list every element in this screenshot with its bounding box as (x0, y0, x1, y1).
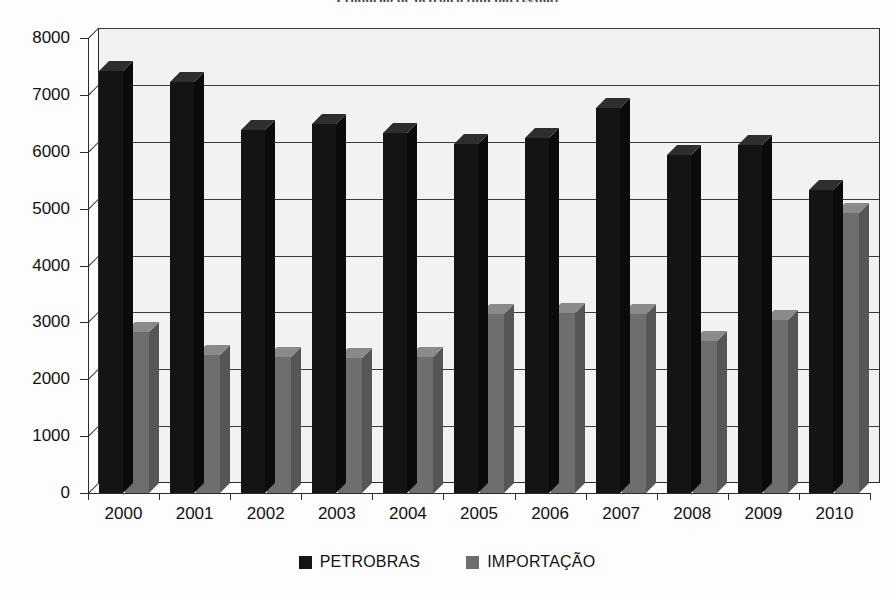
plot-area (88, 38, 870, 493)
bar-2008-petrobras (667, 155, 691, 493)
bar-front-face (809, 190, 833, 493)
bar-2010-petrobras (809, 190, 833, 493)
x-axis-tick-label: 2004 (389, 504, 427, 524)
legend-swatch-gray-icon (466, 556, 479, 569)
x-axis-tick-mark (372, 493, 373, 500)
bar-side-face (478, 134, 488, 493)
gridline (98, 28, 880, 29)
y-axis-tick-label: 6000 (32, 142, 70, 162)
x-axis-tick-mark (657, 493, 658, 500)
bar-side-face (407, 123, 417, 493)
bar-front-face (596, 108, 620, 493)
bar-front-face (241, 130, 265, 493)
bar-front-face (525, 138, 549, 493)
x-axis-tick-label: 2000 (105, 504, 143, 524)
x-axis-tick-label: 2003 (318, 504, 356, 524)
x-axis-tick-mark (301, 493, 302, 500)
bar-side-face (859, 203, 869, 493)
chart-title: Produção de petróleo (mil barris/dia) (0, 0, 894, 2)
bar-side-face (220, 345, 230, 493)
bar-2009-petrobras (738, 145, 762, 493)
bar-2000-petrobras (99, 71, 123, 493)
plot-left-wall (88, 38, 89, 493)
y-axis-tick-label: 2000 (32, 369, 70, 389)
bar-side-face (646, 304, 656, 493)
bar-front-face (738, 145, 762, 493)
x-axis-tick-label: 2002 (247, 504, 285, 524)
y-axis-tick-label: 8000 (32, 28, 70, 48)
x-axis-tick-label: 2008 (673, 504, 711, 524)
x-axis-tick-mark (586, 493, 587, 500)
bar-side-face (549, 128, 559, 493)
y-axis-tick-mark (80, 152, 88, 153)
legend-label: IMPORTAÇÃO (487, 553, 595, 571)
y-axis-tick-mark (80, 322, 88, 323)
bar-front-face (99, 71, 123, 493)
legend-item-petrobras[interactable]: PETROBRAS (299, 553, 421, 571)
y-axis-tick-mark (80, 493, 88, 494)
bar-side-face (433, 347, 443, 494)
bar-side-face (336, 114, 346, 493)
x-axis-tick-label: 2001 (176, 504, 214, 524)
x-axis-tick-mark (230, 493, 231, 500)
bar-2002-petrobras (241, 130, 265, 493)
bar-side-face (362, 348, 372, 493)
bar-2007-petrobras (596, 108, 620, 493)
bar-front-face (383, 133, 407, 493)
x-axis-tick-mark (515, 493, 516, 500)
bar-2001-petrobras (170, 82, 194, 493)
bar-side-face (620, 98, 630, 493)
x-axis-tick-mark (728, 493, 729, 500)
bar-side-face (691, 145, 701, 493)
bar-side-face (149, 322, 159, 493)
y-axis-tick-label: 0 (61, 483, 70, 503)
x-axis-tick-label: 2010 (816, 504, 854, 524)
bar-front-face (667, 155, 691, 493)
y-axis-tick-label: 3000 (32, 312, 70, 332)
bar-side-face (762, 135, 772, 493)
x-axis-tick-mark (88, 493, 89, 500)
bar-front-face (170, 82, 194, 493)
x-axis-tick-mark (799, 493, 800, 500)
x-axis-tick-mark (443, 493, 444, 500)
x-axis-tick-label: 2006 (531, 504, 569, 524)
bar-2003-petrobras (312, 124, 336, 493)
y-axis-tick-mark (80, 38, 88, 39)
x-axis-tick-mark (870, 493, 871, 500)
bar-chart: Produção de petróleo (mil barris/dia) 01… (0, 0, 894, 598)
bar-side-face (291, 347, 301, 494)
bar-side-face (575, 303, 585, 493)
y-axis-tick-label: 1000 (32, 426, 70, 446)
y-axis-tick-mark (80, 95, 88, 96)
bar-side-face (265, 120, 275, 493)
bar-side-face (788, 310, 798, 493)
plot-floor (88, 493, 870, 494)
y-axis-tick-label: 4000 (32, 256, 70, 276)
legend-swatch-black-icon (299, 556, 312, 569)
chart-legend: PETROBRASIMPORTAÇÃO (0, 553, 894, 571)
x-axis-tick-label: 2009 (744, 504, 782, 524)
legend-item-importação[interactable]: IMPORTAÇÃO (466, 553, 595, 571)
bar-side-face (717, 331, 727, 493)
legend-label: PETROBRAS (320, 553, 421, 571)
x-axis-tick-label: 2005 (460, 504, 498, 524)
bar-side-face (504, 304, 514, 493)
gridline (98, 85, 880, 86)
y-axis-tick-label: 7000 (32, 85, 70, 105)
x-axis-tick-mark (159, 493, 160, 500)
bar-2006-petrobras (525, 138, 549, 493)
bar-side-face (194, 72, 204, 493)
bar-front-face (312, 124, 336, 493)
y-axis-tick-mark (80, 436, 88, 437)
bar-side-face (833, 180, 843, 493)
x-axis-tick-label: 2007 (602, 504, 640, 524)
bar-2005-petrobras (454, 144, 478, 493)
bar-side-face (123, 61, 133, 493)
bar-front-face (454, 144, 478, 493)
y-axis-tick-mark (80, 379, 88, 380)
y-axis-tick-label: 5000 (32, 199, 70, 219)
bar-2004-petrobras (383, 133, 407, 493)
